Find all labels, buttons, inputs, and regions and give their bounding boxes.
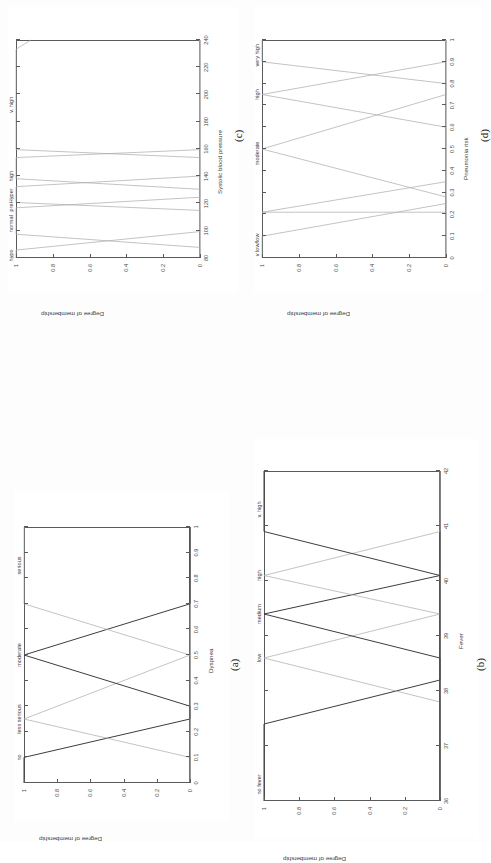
x-tick: [442, 213, 446, 214]
caption-b: (b): [474, 658, 486, 671]
caption-c: (c): [232, 130, 244, 142]
x-tick-top: [24, 731, 28, 732]
x-tick-top: [24, 526, 28, 527]
axis-label-x-a: Dyspnea: [207, 649, 214, 673]
fuzzy-set-label-low: low: [256, 654, 262, 662]
fuzzy-set-label-high: high: [8, 171, 14, 182]
x-tick-top: [24, 628, 28, 629]
x-tick-top: [262, 39, 266, 40]
x-tick-top: [16, 39, 20, 40]
fuzzy-set-label-medium: medium: [256, 604, 262, 624]
x-tick-top: [16, 121, 20, 122]
x-tick-label: 40: [443, 578, 449, 584]
fuzzy-set-label-high: high: [256, 570, 262, 581]
y-tick: [24, 779, 25, 783]
x-tick-top: [16, 230, 20, 231]
x-tick-top: [16, 148, 20, 149]
y-tick: [405, 797, 406, 801]
x-tick-label: 120: [203, 199, 209, 208]
x-tick-top: [16, 203, 20, 204]
membership-curve-tail: [262, 40, 446, 258]
x-tick: [196, 94, 200, 95]
x-tick-label: 220: [203, 63, 209, 72]
x-tick-label: 0.3: [193, 702, 199, 710]
membership-curve-serious: [24, 527, 190, 783]
x-tick: [186, 552, 190, 553]
x-tick-label: 0.4: [449, 167, 455, 175]
x-tick: [186, 526, 190, 527]
y-tick-label: 0.2: [154, 789, 160, 797]
caption-d: (d): [478, 129, 490, 142]
x-tick: [196, 175, 200, 176]
y-tick-label: 0.6: [333, 264, 339, 272]
x-tick-label: 0.7: [449, 102, 455, 110]
x-tick: [436, 580, 440, 581]
x-tick-label: 0.2: [449, 211, 455, 219]
x-tick-label: 1: [193, 525, 199, 528]
x-tick: [186, 756, 190, 757]
y-tick: [262, 254, 263, 258]
y-tick-label: 0.2: [160, 264, 166, 272]
x-tick: [196, 230, 200, 231]
y-tick-label: 0.8: [296, 264, 302, 272]
x-tick-top: [24, 577, 28, 578]
y-tick-label: 0.6: [87, 789, 93, 797]
y-tick: [157, 779, 158, 783]
x-tick-label: 42: [443, 468, 449, 474]
y-tick-label: 0.6: [331, 807, 337, 815]
y-tick: [264, 797, 265, 801]
fuzzy-set-label-moderate: moderate: [16, 643, 22, 667]
fuzzy-set-label-high: high: [254, 89, 260, 100]
x-tick-label: 80: [203, 255, 209, 261]
fuzzy-set-label-normal: normal: [8, 215, 14, 232]
x-tick-label: 0.8: [193, 574, 199, 582]
fuzzy-set-label-no: no: [16, 754, 22, 760]
x-tick-label: 180: [203, 117, 209, 126]
x-tick-top: [264, 690, 268, 691]
x-tick-label: 0.5: [449, 145, 455, 153]
axis-label-y-d: Degree of membership: [287, 311, 350, 318]
x-tick-top: [16, 94, 20, 95]
x-tick: [186, 628, 190, 629]
x-tick: [186, 731, 190, 732]
x-tick-label: 0.7: [193, 600, 199, 608]
x-tick: [196, 121, 200, 122]
y-tick-label: 0: [197, 264, 203, 267]
y-tick-label: 0.8: [296, 807, 302, 815]
y-tick-label: 0: [187, 789, 193, 792]
y-tick: [53, 254, 54, 258]
x-tick: [436, 635, 440, 636]
x-tick-top: [16, 175, 20, 176]
y-tick: [370, 797, 371, 801]
x-tick-label: 100: [203, 226, 209, 235]
x-tick-label: 0: [449, 256, 455, 259]
y-tick-label: 0.2: [402, 807, 408, 815]
x-tick-label: 36: [443, 798, 449, 804]
y-tick: [190, 779, 191, 783]
x-tick-top: [262, 61, 266, 62]
fuzzy-set-label-v-high: v. high: [256, 501, 262, 517]
x-tick: [442, 104, 446, 105]
x-tick-top: [262, 104, 266, 105]
y-tick: [163, 254, 164, 258]
x-tick: [196, 39, 200, 40]
y-tick-label: 1: [261, 807, 267, 810]
x-tick-label: 200: [203, 90, 209, 99]
x-tick: [442, 148, 446, 149]
x-tick-top: [264, 580, 268, 581]
x-tick: [442, 170, 446, 171]
x-tick-top: [262, 126, 266, 127]
x-tick-top: [24, 654, 28, 655]
axis-label-x-b: Fever: [457, 633, 464, 649]
y-tick-label: 0.4: [121, 789, 127, 797]
y-tick: [124, 779, 125, 783]
x-tick: [436, 690, 440, 691]
x-tick: [442, 126, 446, 127]
x-tick-label: 41: [443, 523, 449, 529]
y-tick-label: 0.4: [123, 264, 129, 272]
x-tick-label: 0.6: [193, 626, 199, 634]
x-tick: [442, 39, 446, 40]
x-tick: [196, 66, 200, 67]
x-tick-label: 0.5: [193, 651, 199, 659]
x-tick-top: [264, 745, 268, 746]
